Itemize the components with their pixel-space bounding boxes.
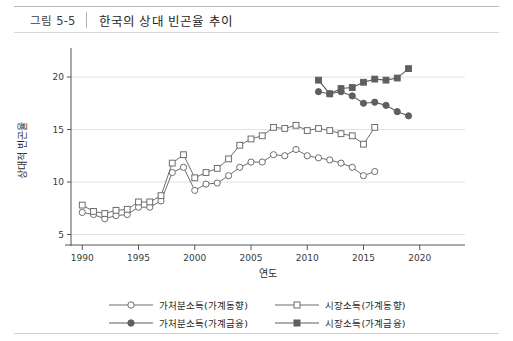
legend-label-3: 시장소득(가계금융)	[325, 316, 405, 330]
open-circle-icon	[108, 299, 154, 311]
plot-area: 51015201990199520002005201020152020연도상대적…	[0, 34, 513, 296]
data-point	[327, 91, 333, 97]
x-tick-label: 2020	[408, 253, 431, 263]
data-point	[361, 141, 367, 147]
data-point	[169, 160, 175, 166]
data-point	[360, 173, 366, 179]
data-point	[304, 153, 310, 159]
y-tick-label: 15	[53, 125, 64, 135]
legend-item-2[interactable]: 가처분소득(가계금융)	[108, 316, 249, 330]
x-axis-title: 연도	[259, 268, 277, 279]
data-point	[237, 164, 243, 170]
header-divider	[86, 12, 87, 28]
y-axis-title: 상대적 빈곤율	[17, 122, 28, 179]
x-tick-label: 1990	[71, 253, 94, 263]
data-point	[102, 211, 108, 217]
data-point	[338, 160, 344, 166]
data-point	[406, 66, 412, 72]
data-point	[181, 152, 187, 158]
data-point	[383, 77, 389, 83]
x-tick-label: 2015	[352, 253, 375, 263]
filled-circle-icon	[108, 317, 154, 329]
data-point	[394, 75, 400, 81]
data-point	[394, 109, 400, 115]
data-point	[136, 199, 142, 205]
series-line-1	[82, 125, 375, 213]
data-point	[327, 128, 333, 134]
line-chart: 51015201990199520002005201020152020연도상대적…	[0, 34, 513, 296]
data-point	[316, 126, 322, 132]
y-tick-label: 5	[58, 230, 64, 240]
data-point	[282, 153, 288, 159]
data-point	[248, 159, 254, 165]
data-point	[203, 181, 209, 187]
x-tick-label: 1995	[127, 253, 150, 263]
data-point	[259, 133, 265, 139]
chart-legend: 가처분소득(가계동향) 시장소득(가계동향) 가처분소득(가계금융)	[0, 296, 513, 336]
data-point	[349, 133, 355, 139]
data-point	[237, 142, 243, 148]
data-point	[293, 146, 299, 152]
y-tick-label: 10	[53, 177, 65, 187]
data-point	[214, 180, 220, 186]
legend-row-top: 가처분소득(가계동향) 시장소득(가계동향)	[0, 296, 513, 314]
figure-container: 그림 5-5 한국의 상대 빈곤율 추이 5101520199019952000…	[0, 0, 513, 341]
data-point	[405, 113, 411, 119]
x-tick-label: 2000	[183, 253, 206, 263]
data-point	[360, 100, 366, 106]
data-point	[372, 99, 378, 105]
data-point	[316, 77, 322, 83]
data-point	[304, 128, 310, 134]
legend-item-3[interactable]: 시장소득(가계금융)	[274, 316, 405, 330]
data-point	[282, 126, 288, 132]
legend-label-0: 가처분소득(가계동향)	[159, 298, 249, 312]
data-point	[214, 165, 220, 171]
x-tick-label: 2005	[240, 253, 263, 263]
data-point	[338, 86, 344, 92]
data-point	[315, 155, 321, 161]
filled-square-icon	[274, 317, 320, 329]
data-point	[203, 170, 209, 176]
figure-number: 그림 5-5	[14, 12, 86, 28]
data-point	[113, 207, 119, 213]
figure-title: 한국의 상대 빈곤율 추이	[99, 11, 234, 30]
data-point	[349, 164, 355, 170]
x-tick-label: 2010	[296, 253, 319, 263]
data-point	[349, 93, 355, 99]
data-point	[361, 79, 367, 85]
data-point	[372, 76, 378, 82]
data-point	[225, 173, 231, 179]
figure-footer-rule	[14, 333, 499, 334]
data-point	[372, 125, 378, 131]
data-point	[192, 187, 198, 193]
y-tick-label: 20	[53, 72, 65, 82]
data-point	[226, 156, 232, 162]
data-point	[91, 209, 97, 215]
data-point	[79, 202, 85, 208]
data-point	[372, 168, 378, 174]
legend-row-bottom: 가처분소득(가계금융) 시장소득(가계금융)	[0, 314, 513, 332]
legend-label-2: 가처분소득(가계금융)	[159, 316, 249, 330]
data-point	[147, 199, 153, 205]
data-point	[327, 157, 333, 163]
legend-label-1: 시장소득(가계동향)	[325, 298, 405, 312]
legend-item-1[interactable]: 시장소득(가계동향)	[274, 298, 405, 312]
data-point	[158, 193, 164, 199]
data-point	[79, 209, 85, 215]
data-point	[338, 131, 344, 137]
data-point	[248, 136, 254, 142]
data-point	[192, 175, 198, 181]
data-point	[383, 102, 389, 108]
data-point	[270, 152, 276, 158]
open-square-icon	[274, 299, 320, 311]
data-point	[349, 85, 355, 91]
data-point	[271, 125, 277, 131]
data-point	[293, 122, 299, 128]
legend-item-0[interactable]: 가처분소득(가계동향)	[108, 298, 249, 312]
data-point	[124, 206, 130, 212]
data-point	[180, 164, 186, 170]
data-point	[315, 89, 321, 95]
data-point	[259, 159, 265, 165]
figure-header: 그림 5-5 한국의 상대 빈곤율 추이	[14, 6, 499, 33]
